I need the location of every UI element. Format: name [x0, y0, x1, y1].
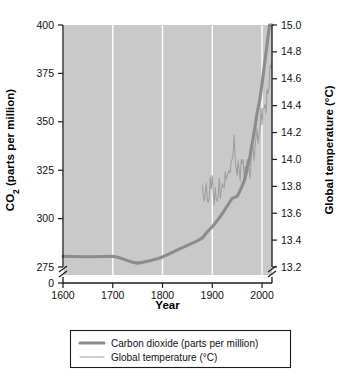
chart-figure: 275300325350375400 13.213.413.613.814.01… [0, 0, 346, 381]
legend-label-carbon-dioxide: Carbon dioxide (parts per million) [111, 338, 258, 349]
left-axis-zero-label: 0 [48, 277, 54, 289]
x-axis-title: Year [155, 299, 180, 311]
x-tick-label-1600: 1600 [51, 289, 75, 301]
right-tick-label-13p2: 13.2 [281, 261, 302, 273]
right-tick-label-13p8: 13.8 [281, 180, 302, 192]
right-tick-label-14p4: 14.4 [281, 99, 302, 111]
legend: Carbon dioxide (parts per million) Globa… [71, 331, 291, 368]
left-tick-label-325: 325 [36, 164, 54, 176]
left-tick-label-300: 300 [36, 212, 54, 224]
right-tick-label-14: 14.0 [281, 153, 302, 165]
left-axis-title-prefix: CO [4, 194, 16, 211]
climate-chart-svg: 275300325350375400 13.213.413.613.814.01… [0, 0, 346, 381]
plot-area-background [63, 25, 272, 275]
x-tick-label-1900: 1900 [201, 289, 225, 301]
right-tick-label-15: 15.0 [281, 19, 302, 31]
right-tick-label-14p8: 14.8 [281, 45, 302, 57]
right-tick-label-13p6: 13.6 [281, 207, 302, 219]
left-tick-label-350: 350 [36, 115, 54, 127]
x-tick-label-1700: 1700 [101, 289, 125, 301]
right-axis-title: Global temperature (°C) [323, 85, 335, 214]
left-tick-label-275: 275 [36, 261, 54, 273]
left-axis-title-suffix: (parts per million) [4, 89, 16, 189]
right-tick-label-14p6: 14.6 [281, 72, 302, 84]
left-tick-label-400: 400 [36, 19, 54, 31]
right-tick-label-13p4: 13.4 [281, 234, 302, 246]
x-tick-label-2000: 2000 [250, 289, 274, 301]
right-tick-label-14p2: 14.2 [281, 126, 302, 138]
left-tick-label-375: 375 [36, 67, 54, 79]
legend-label-global-temperature: Global temperature (°C) [111, 352, 217, 363]
